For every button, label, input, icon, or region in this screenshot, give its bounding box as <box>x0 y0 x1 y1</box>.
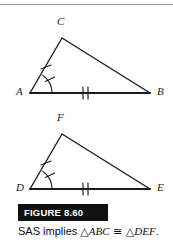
segment-ac <box>30 38 62 93</box>
caption-triangle-def: △DEF <box>126 225 156 237</box>
vertex-label-f: F <box>57 112 64 123</box>
segment-fe <box>62 134 150 189</box>
vertex-label-b: B <box>157 86 164 97</box>
segment-df <box>30 134 62 189</box>
caption-congruent-symbol: ≅ <box>110 225 126 238</box>
caption-prefix: SAS implies <box>18 225 80 237</box>
vertex-label-d: D <box>16 182 24 193</box>
vertex-label-a: A <box>16 86 23 97</box>
geometry-diagram <box>0 0 173 200</box>
figure-number-badge: FIGURE 8.60 <box>18 204 108 221</box>
triangle-abc <box>30 38 150 99</box>
segment-cb <box>62 38 150 93</box>
figure-container: A B C D E F FIGURE 8.60 SAS implies △ABC… <box>0 0 173 242</box>
vertex-label-c: C <box>57 16 64 27</box>
vertex-label-e: E <box>157 182 164 193</box>
caption-suffix: . <box>156 225 159 237</box>
triangle-def <box>30 134 150 195</box>
angle-arc-a <box>43 75 55 93</box>
caption-triangle-abc: △ABC <box>80 225 109 237</box>
figure-caption: SAS implies △ABC ≅ △DEF. <box>18 225 173 238</box>
angle-arc-d <box>43 171 55 189</box>
